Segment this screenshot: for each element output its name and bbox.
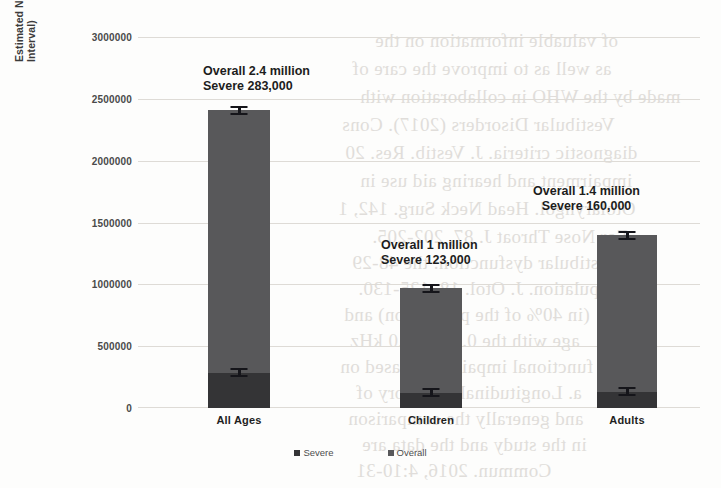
annotation-line-2: Severe 160,000 (533, 199, 640, 214)
legend-swatch-severe-icon (294, 450, 300, 456)
y-axis-tick-labels: 3000000 2500000 2000000 1500000 1000000 … (60, 37, 132, 408)
error-bar-overall (423, 284, 440, 293)
annotation-line-1: Overall 1 million (381, 238, 478, 253)
error-bar-cap-bottom (619, 394, 636, 396)
y-tick-label: 0 (62, 403, 132, 414)
legend-label-severe: Severe (303, 447, 333, 458)
y-tick-label: 1000000 (62, 279, 132, 290)
error-bar-cap-bottom (231, 375, 248, 377)
annotation-line-2: Severe 283,000 (203, 79, 310, 94)
error-bar-severe (619, 387, 636, 396)
legend-label-overall: Overall (397, 447, 427, 458)
annotation-all-ages: Overall 2.4 million Severe 283,000 (203, 64, 310, 93)
error-bar-severe (231, 368, 248, 377)
annotation-line-2: Severe 123,000 (381, 253, 478, 268)
annotation-adults: Overall 1.4 million Severe 160,000 (533, 184, 640, 213)
bar-segment-overall (597, 235, 657, 408)
y-tick-label: 2000000 (62, 155, 132, 166)
y-tick-label: 3000000 (62, 32, 132, 43)
error-bar-cap-bottom (231, 113, 248, 115)
error-bar-cap-bottom (619, 238, 636, 240)
annotation-children: Overall 1 million Severe 123,000 (381, 238, 478, 267)
annotation-line-1: Overall 2.4 million (203, 64, 310, 79)
x-tick-label-all-ages: All Ages (216, 414, 261, 426)
bar-children[interactable] (400, 288, 462, 408)
error-bar-severe (423, 388, 440, 397)
annotation-line-1: Overall 1.4 million (533, 184, 640, 199)
error-bar-cap-bottom (423, 395, 440, 397)
stacked-bar-chart: Estimated Number of Individuals (95% Con… (0, 0, 721, 488)
legend-item-severe[interactable]: Severe (294, 447, 333, 458)
chart-legend: Severe Overall (0, 447, 721, 458)
y-tick-label: 2500000 (62, 93, 132, 104)
error-bar-overall (231, 106, 248, 115)
bar-segment-severe (208, 373, 270, 408)
gridline (138, 99, 700, 100)
gridline (138, 37, 700, 38)
x-tick-label-children: Children (408, 414, 454, 426)
bar-adults[interactable] (597, 235, 657, 408)
legend-swatch-overall-icon (388, 450, 394, 456)
error-bar-overall (619, 231, 636, 240)
x-tick-label-adults: Adults (609, 414, 644, 426)
y-axis-title: Estimated Number of Individuals (95% Con… (13, 0, 37, 62)
bar-segment-overall (208, 110, 270, 408)
error-bar-cap-bottom (423, 291, 440, 293)
y-tick-label: 500000 (62, 341, 132, 352)
bar-all-ages[interactable] (208, 110, 270, 408)
legend-item-overall[interactable]: Overall (388, 447, 427, 458)
y-tick-label: 1500000 (62, 217, 132, 228)
